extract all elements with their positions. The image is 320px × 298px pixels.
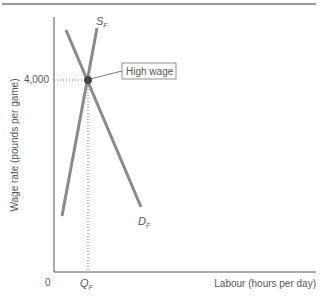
annotation-leader [90, 71, 122, 79]
origin-label: 0 [45, 277, 51, 288]
demand-curve [66, 30, 141, 207]
x-axis-label: Labour (hours per day) [214, 278, 316, 289]
supply-label: SF [96, 15, 108, 29]
demand-label: DF [138, 215, 151, 229]
y-tick-4000: 4,000 [24, 74, 49, 85]
equilibrium-point [84, 76, 92, 84]
chart-canvas: High wage SF DF 4,000 0 QF Labour (hours… [0, 0, 320, 298]
x-tick-qf: QF [80, 277, 94, 291]
y-axis-label: Wage rate (pounds per game) [9, 78, 20, 211]
supply-curve [62, 28, 97, 216]
annotation-text: High wage [126, 66, 174, 77]
